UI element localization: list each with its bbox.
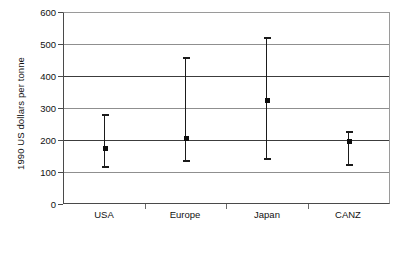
clipped-title-remnant — [0, 0, 409, 2]
y-tick-label-100: 100 — [20, 167, 56, 178]
x-tick-label-canz: CANZ — [308, 209, 388, 220]
error-bar-cap-upper-japan — [264, 37, 271, 39]
gridline-500 — [64, 44, 389, 45]
error-bar-cap-upper-europe — [183, 57, 190, 59]
error-bar-cap-upper-canz — [346, 131, 353, 133]
x-tick-label-europe: Europe — [145, 209, 225, 220]
gridline-400 — [64, 76, 389, 77]
data-point-japan — [265, 98, 270, 103]
y-tick-label-300: 300 — [20, 103, 56, 114]
gridline-300 — [64, 108, 389, 109]
y-tick-label-200: 200 — [20, 135, 56, 146]
error-bar-stem-usa — [104, 114, 105, 166]
error-bar-cap-lower-usa — [102, 166, 109, 168]
error-bar-cap-lower-europe — [183, 160, 190, 162]
plot-area — [63, 12, 390, 204]
error-bar-cap-upper-usa — [102, 114, 109, 116]
error-bar-stem-canz — [348, 131, 349, 164]
y-tick-mark-0 — [58, 204, 63, 205]
x-tick-label-usa: USA — [64, 209, 144, 220]
error-bar-cap-lower-japan — [264, 158, 271, 160]
error-bar-chart: 1990 US dollars per tonne 600 500 400 30… — [0, 0, 409, 262]
y-tick-label-400: 400 — [20, 71, 56, 82]
y-tick-label-600: 600 — [20, 7, 56, 18]
gridline-200 — [64, 140, 389, 141]
y-tick-label-500: 500 — [20, 39, 56, 50]
data-point-europe — [184, 136, 189, 141]
gridline-100 — [64, 172, 389, 173]
data-point-usa — [103, 146, 108, 151]
error-bar-stem-europe — [185, 57, 186, 160]
y-tick-label-0: 0 — [20, 199, 56, 210]
error-bar-cap-lower-canz — [346, 164, 353, 166]
data-point-canz — [347, 139, 352, 144]
x-tick-label-japan: Japan — [227, 209, 307, 220]
